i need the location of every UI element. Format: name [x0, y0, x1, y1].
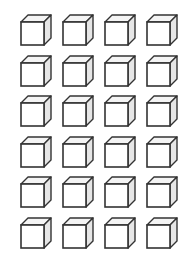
cube-outline-icon — [61, 216, 95, 250]
cube-outline-icon — [145, 135, 179, 169]
cube-outline-icon — [61, 13, 95, 47]
cube-outline-icon — [19, 94, 53, 128]
cube-outline-icon — [103, 13, 137, 47]
cube-outline-icon — [103, 175, 137, 209]
cube-outline-icon — [61, 54, 95, 88]
cube-outline-icon — [145, 54, 179, 88]
cube-outline-icon — [61, 175, 95, 209]
cube-outline-icon — [103, 94, 137, 128]
cube-outline-icon — [103, 216, 137, 250]
cube-grid — [19, 13, 179, 257]
cube-outline-icon — [145, 94, 179, 128]
cube-outline-icon — [145, 216, 179, 250]
cube-outline-icon — [145, 13, 179, 47]
cube-outline-icon — [19, 13, 53, 47]
cube-outline-icon — [61, 94, 95, 128]
cube-outline-icon — [19, 175, 53, 209]
cube-outline-icon — [61, 135, 95, 169]
cube-outline-icon — [103, 135, 137, 169]
cube-outline-icon — [19, 54, 53, 88]
cube-outline-icon — [19, 135, 53, 169]
cube-outline-icon — [103, 54, 137, 88]
cube-outline-icon — [145, 175, 179, 209]
cube-outline-icon — [19, 216, 53, 250]
